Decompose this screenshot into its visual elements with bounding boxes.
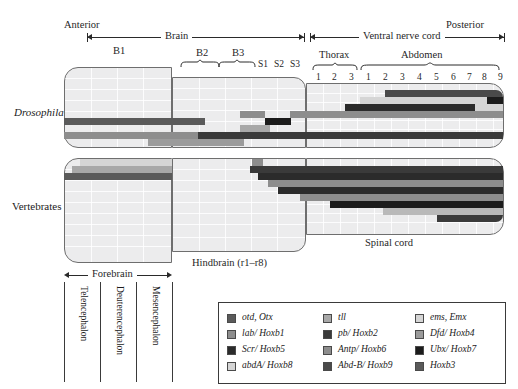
legend-item[interactable]: pb/ Hoxb2 [323,326,415,342]
organism-label-drosophila: Drosophila [14,106,64,118]
bar-drosophila-tll-lower [240,125,270,132]
abdomen-segment-4: 4 [417,73,422,83]
legend-item-label: abdA/ Hoxb8 [242,361,292,371]
legend-item-label: Scr/ Hoxb5 [242,345,285,355]
bar-vertebrate-otd-otx [64,173,172,180]
bar-vertebrate-dfd-hoxb4 [268,180,503,187]
bar-drosophila-scr-hoxb5 [290,111,503,118]
abdomen-segment-3: 3 [400,73,405,83]
abdomen-segment-6: 6 [451,73,456,83]
abdomen-segment-8: 8 [482,73,487,83]
group-label-thorax: Thorax [319,50,349,61]
legend-item[interactable]: tll [323,310,415,326]
legend-item-label: Dfd/ Hoxb4 [430,329,475,339]
legend-column-2: tllpb/ Hoxb2Antp/ Hoxb6Abd-B/ Hoxb9 [323,310,415,374]
vnc-range-arrow-left [310,34,315,40]
legend-item-label: Hoxb3 [430,361,455,371]
bar-drosophila-otd-otx [64,118,205,125]
segment-label-s2: S2 [274,60,284,70]
bar-drosophila-antp-hoxb6-tail [475,104,503,111]
legend-item-label: Abd-B/ Hoxb9 [338,361,393,371]
bar-drosophila-antp-hoxb6 [345,104,475,111]
hindbrain-caption: Hindbrain (r1–r8) [192,258,267,269]
thorax-segment-2: 2 [332,73,337,83]
segment-label-s1: S1 [258,60,268,70]
bar-vertebrate-pb-hoxb2 [250,166,503,173]
legend-swatch-icon [323,330,332,339]
organism-label-vertebrates: Vertebrates [12,200,61,212]
legend-swatch-icon [323,314,332,323]
legend-item[interactable]: otd, Otx [227,310,319,326]
legend-item-label: otd, Otx [242,313,273,323]
group-label-b3: B3 [232,48,244,59]
forebrain-range-arrow-left [64,272,69,278]
figure-canvas: Anterior Posterior Brain Ventral nerve c… [0,0,518,389]
brain-range-line [87,37,304,38]
bar-drosophila-abda-hoxb8 [360,97,487,104]
bar-drosophila-hoxb3 [148,139,244,146]
bar-vertebrate-scr-hoxb5 [278,187,503,194]
abdomen-segment-7: 7 [467,73,472,83]
bar-vertebrate-abda-hoxb8 [383,208,503,215]
segment-label-s3: S3 [290,60,300,70]
brain-range-label: Brain [161,31,192,42]
brain-range-tick-right [304,33,305,42]
legend-swatch-icon [415,314,424,323]
vnc-range-tick-right [504,33,505,42]
bar-vertebrate-abdb-hoxb9 [437,215,503,222]
legend-item[interactable]: Ubx/ Hoxb7 [415,342,507,358]
bar-vertebrate-hoxb3 [258,173,503,180]
legend-swatch-icon [227,362,236,371]
legend-swatch-icon [227,314,236,323]
brace-b3 [218,59,256,68]
legend-swatch-icon [415,346,424,355]
group-label-b2: B2 [196,48,208,59]
vnc-range-label: Ventral nerve cord [359,31,445,42]
forebrain-range-label: Forebrain [88,269,137,280]
forebrain-part-deuterencephalon: Deuterencephalon [115,286,125,355]
thorax-segment-3: 3 [349,73,354,83]
brain-range-arrow-left [87,34,92,40]
legend-column-1: otd, Otxlab/ Hoxb1Scr/ Hoxb5abdA/ Hoxb8 [227,310,319,374]
legend-item[interactable]: Abd-B/ Hoxb9 [323,358,415,374]
legend-item-label: lab/ Hoxb1 [242,329,284,339]
group-label-abdomen: Abdomen [401,50,442,61]
legend-item-label: ems, Emx [430,313,466,323]
legend-item[interactable]: Scr/ Hoxb5 [227,342,319,358]
legend-item-label: pb/ Hoxb2 [338,329,378,339]
brace-abdomen [360,62,500,71]
bar-vertebrate-ems-emx [80,159,172,166]
legend-swatch-icon [323,362,332,371]
legend-swatch-icon [415,362,424,371]
bar-drosophila-dfd-hoxb4 [265,118,291,125]
bar-vertebrate-lab-hoxb1 [252,159,263,166]
legend-item[interactable]: Hoxb3 [415,358,507,374]
legend-item[interactable]: ems, Emx [415,310,507,326]
legend-column-3: ems, EmxDfd/ Hoxb4Ubx/ Hoxb7Hoxb3 [415,310,507,374]
legend-item-label: Ubx/ Hoxb7 [430,345,476,355]
legend-item-label: Antp/ Hoxb6 [338,345,386,355]
posterior-label: Posterior [446,20,484,31]
forebrain-part-telencephalon: Telencephalon [79,286,89,341]
forebrain-divider-3 [172,282,173,382]
forebrain-divider-1 [100,282,101,382]
legend-item[interactable]: Dfd/ Hoxb4 [415,326,507,342]
legend-box: otd, Otxlab/ Hoxb1Scr/ Hoxb5abdA/ Hoxb8 … [218,302,506,384]
legend-item[interactable]: Antp/ Hoxb6 [323,342,415,358]
legend-swatch-icon [227,330,236,339]
bar-vertebrate-antp-hoxb6 [300,194,503,201]
legend-item[interactable]: lab/ Hoxb1 [227,326,319,342]
bar-drosophila-pb-hoxb2 [198,132,503,139]
legend-item[interactable]: abdA/ Hoxb8 [227,358,319,374]
bar-drosophila-ubx-hoxb7-tail [487,97,503,104]
forebrain-range-arrow-right [167,272,172,278]
group-label-b1: B1 [113,46,125,57]
forebrain-divider-2 [136,282,137,382]
abdomen-segment-5: 5 [434,73,439,83]
brace-b2 [180,59,220,68]
legend-swatch-icon [415,330,424,339]
legend-item-label: tll [338,313,346,323]
abdomen-segment-2: 2 [383,73,388,83]
bar-vertebrate-ubx-hoxb7 [330,201,503,208]
bar-drosophila-tll [240,111,265,118]
